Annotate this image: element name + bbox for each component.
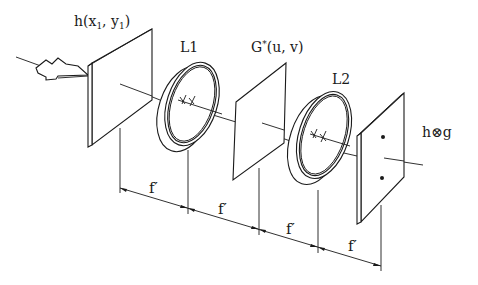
lens-L1 <box>147 55 229 159</box>
filter-plane <box>233 63 286 180</box>
output-plane <box>357 93 404 224</box>
dimension-line <box>120 188 381 266</box>
focal-length-label-4: f′ <box>348 237 358 255</box>
lens-L2 <box>277 84 362 191</box>
focal-length-label-2: f′ <box>218 200 228 218</box>
correlation-peak-dot <box>380 176 384 180</box>
optical-correlator-diagram: f′ f′ f′ f′ h(x1, y1) L1 G*(u, v) L2 h⊗g <box>0 0 478 285</box>
correlation-peak-dot <box>381 135 385 139</box>
lens-L1-label: L1 <box>180 39 198 55</box>
focal-length-label-3: f′ <box>286 220 296 238</box>
focal-length-label-1: f′ <box>149 179 159 197</box>
input-light-arrow-icon <box>36 58 88 80</box>
input-plane-label: h(x1, y1) <box>74 13 130 31</box>
filter-plane-label: G*(u, v) <box>251 39 303 55</box>
output-plane-label: h⊗g <box>422 124 452 140</box>
lens-L2-label: L2 <box>332 71 350 87</box>
